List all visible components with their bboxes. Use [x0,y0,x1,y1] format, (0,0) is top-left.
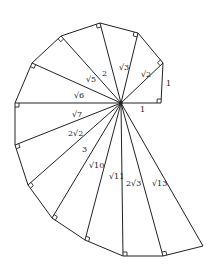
outer-edge-8 [28,185,52,218]
right-angle-marker-icon [158,60,161,66]
right-angle-marker-icon [15,103,19,107]
label-base-1: 1 [140,106,145,114]
spoke-7 [15,103,121,145]
outer-edge-1 [138,33,163,63]
outer-edge-2 [100,23,138,33]
right-angle-marker-icon [123,252,127,256]
label-leg-1: 1 [166,80,171,88]
spoke-13 [121,103,203,246]
label-2: 2 [102,70,107,78]
outer-edge-0 [161,63,163,103]
label-2sqrt2: 2√2 [68,130,83,138]
label-sqrt2: √2 [141,71,151,79]
outer-edge-4 [32,36,61,63]
right-angle-marker-icon [58,39,64,42]
spiral-of-theodorus-diagram: 11√2√32√5√6√72√23√10√112√3√13 [0,0,220,272]
outer-edge-9 [52,218,85,240]
right-angle-marker-icon [30,182,33,188]
outer-edge-7 [15,145,28,185]
label-2sqrt3: 2√3 [126,180,141,188]
spoke-9 [52,103,121,218]
label-sqrt10: √10 [89,162,104,170]
outer-edge-3 [61,23,100,36]
spiral-drawing [0,0,220,272]
label-sqrt5: √5 [86,76,96,84]
label-sqrt7: √7 [72,111,82,119]
center-point [119,101,123,105]
label-3: 3 [82,146,87,154]
outer-edge-10 [85,240,123,256]
outer-edge-12 [163,246,203,256]
label-sqrt11: √11 [109,173,124,181]
label-sqrt13: √13 [152,180,167,188]
outer-edge-5 [15,63,32,103]
label-sqrt3: √3 [119,64,129,72]
label-sqrt6: √6 [74,92,84,100]
